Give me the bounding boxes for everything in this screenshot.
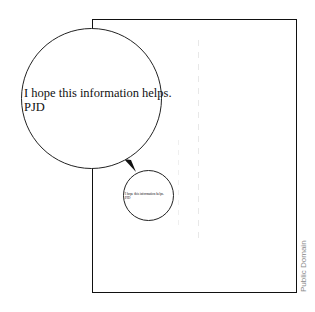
large-bubble-line1: I hope this information helps. (24, 86, 172, 100)
small-bubble-line2: PJD (125, 196, 164, 200)
small-bubble-text: I hope this information helps. PJD (125, 192, 164, 200)
credit-label: Public Domain (299, 240, 308, 292)
large-bubble-text: I hope this information helps. PJD (24, 86, 172, 114)
large-bubble-line2: PJD (24, 100, 172, 114)
